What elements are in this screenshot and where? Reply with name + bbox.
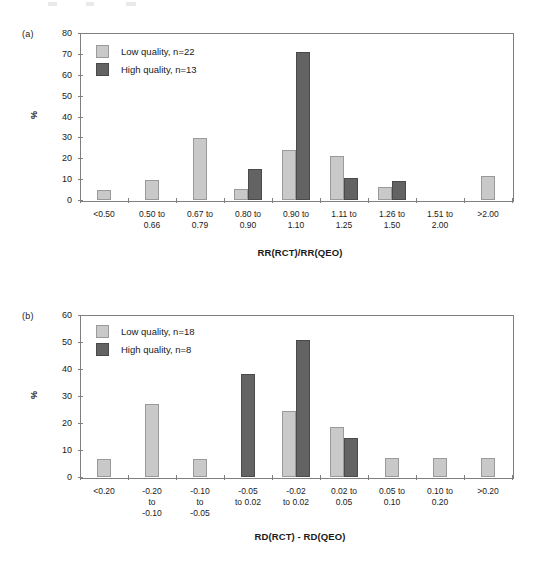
panel-b: (b) % RD(RCT) - RD(QEO) Low quality, n=1…: [0, 282, 544, 566]
y-axis-tick-label: 60: [50, 311, 72, 320]
y-axis-tick-mark: [78, 54, 83, 55]
x-axis-tick-label: >2.00: [464, 209, 512, 220]
x-axis-tick-mark: [272, 475, 273, 480]
x-axis-tick-label: 1.26 to 1.50: [368, 209, 416, 231]
bar: [330, 156, 344, 200]
legend-item-high-quality: High quality, n=8: [96, 342, 195, 357]
bar: [193, 459, 207, 477]
figure: (a) % RR(RCT)/RR(QEO) Low quality, n=22 …: [0, 0, 544, 566]
x-axis-tick-mark: [128, 475, 129, 480]
bar: [241, 374, 255, 477]
bar: [296, 340, 310, 477]
y-axis-tick-mark: [78, 179, 83, 180]
x-axis-tick-mark: [224, 475, 225, 480]
y-axis-tick-mark: [78, 96, 83, 97]
y-axis-tick-label: 50: [50, 92, 72, 101]
legend-swatch-low-quality-icon: [96, 45, 109, 58]
y-axis-tick-label: 30: [50, 392, 72, 401]
legend-label-low-quality: Low quality, n=22: [121, 46, 195, 57]
x-axis-tick-label: <0.50: [80, 209, 128, 220]
panel-a-y-axis-title: %: [29, 105, 39, 125]
legend-swatch-low-quality-icon: [96, 325, 109, 338]
x-axis-tick-mark: [80, 475, 81, 480]
bar: [344, 438, 358, 477]
y-axis-tick-mark: [78, 369, 83, 370]
y-axis-tick-label: 60: [50, 71, 72, 80]
x-axis-tick-mark: [176, 198, 177, 203]
panel-b-y-axis-title: %: [29, 385, 39, 405]
x-axis-tick-mark: [464, 198, 465, 203]
x-axis-tick-label: -0.05 to 0.02: [224, 486, 272, 508]
y-axis-tick-label: 40: [50, 365, 72, 374]
legend-label-low-quality: Low quality, n=18: [121, 326, 195, 337]
y-axis-tick-mark: [78, 158, 83, 159]
y-axis-tick-mark: [78, 33, 83, 34]
bar: [330, 427, 344, 477]
x-axis-tick-mark: [416, 198, 417, 203]
y-axis-tick-label: 50: [50, 338, 72, 347]
bar: [296, 52, 310, 200]
y-axis-tick-label: 30: [50, 133, 72, 142]
legend-item-low-quality: Low quality, n=22: [96, 44, 197, 59]
y-axis-tick-mark: [78, 315, 83, 316]
legend-label-high-quality: High quality, n=13: [121, 64, 197, 75]
bar: [193, 138, 207, 200]
panel-b-x-axis-title: RD(RCT) - RD(QEO): [80, 531, 520, 542]
x-axis-tick-mark: [128, 198, 129, 203]
bar: [145, 180, 159, 200]
x-axis-tick-label: -0.10 to -0.05: [176, 486, 224, 519]
legend-swatch-high-quality-icon: [96, 63, 109, 76]
x-axis-tick-mark: [272, 198, 273, 203]
bar: [481, 176, 495, 200]
y-axis-tick-mark: [78, 137, 83, 138]
x-axis-tick-label: <0.20: [80, 486, 128, 497]
y-axis-tick-mark: [78, 450, 83, 451]
y-axis-tick-mark: [78, 117, 83, 118]
x-axis-tick-label: 1.11 to 1.25: [320, 209, 368, 231]
x-axis-tick-mark: [224, 198, 225, 203]
y-axis-tick-label: 0: [50, 196, 72, 205]
bar: [385, 458, 399, 477]
y-axis-tick-mark: [78, 342, 83, 343]
bar: [234, 189, 248, 200]
x-axis-tick-label: 1.51 to 2.00: [416, 209, 464, 231]
panel-a-legend: Low quality, n=22 High quality, n=13: [96, 44, 197, 80]
panel-a-tag: (a): [22, 29, 34, 39]
bar: [97, 459, 111, 477]
x-axis-tick-mark: [512, 475, 513, 480]
x-axis-tick-label: 0.50 to 0.66: [128, 209, 176, 231]
bar: [145, 404, 159, 477]
x-axis-tick-mark: [176, 475, 177, 480]
panel-a: (a) % RR(RCT)/RR(QEO) Low quality, n=22 …: [0, 0, 544, 290]
bar: [392, 181, 406, 200]
y-axis-tick-label: 20: [50, 419, 72, 428]
x-axis-tick-label: >0.20: [464, 486, 512, 497]
x-axis-tick-label: 0.05 to 0.10: [368, 486, 416, 508]
x-axis-tick-mark: [368, 475, 369, 480]
x-axis-tick-label: 0.67 to 0.79: [176, 209, 224, 231]
x-axis-tick-mark: [416, 475, 417, 480]
y-axis-tick-label: 10: [50, 175, 72, 184]
bar: [282, 411, 296, 477]
x-axis-tick-label: -0.02 to 0.02: [272, 486, 320, 508]
y-axis-tick-mark: [78, 423, 83, 424]
x-axis-tick-label: -0.20 to -0.10: [128, 486, 176, 519]
x-axis-tick-mark: [320, 198, 321, 203]
legend-swatch-high-quality-icon: [96, 343, 109, 356]
x-axis-tick-mark: [320, 475, 321, 480]
y-axis-tick-label: 0: [50, 473, 72, 482]
bar: [378, 187, 392, 200]
bar: [282, 150, 296, 200]
x-axis-tick-mark: [464, 475, 465, 480]
x-axis-tick-mark: [368, 198, 369, 203]
x-axis-tick-label: 0.10 to 0.20: [416, 486, 464, 508]
x-axis-tick-mark: [512, 198, 513, 203]
legend-item-low-quality: Low quality, n=18: [96, 324, 195, 339]
x-axis-tick-label: 0.80 to 0.90: [224, 209, 272, 231]
y-axis-tick-label: 10: [50, 446, 72, 455]
x-axis-tick-mark: [80, 198, 81, 203]
bar: [481, 458, 495, 477]
y-axis-tick-mark: [78, 396, 83, 397]
legend-item-high-quality: High quality, n=13: [96, 62, 197, 77]
x-axis-tick-label: 0.90 to 1.10: [272, 209, 320, 231]
